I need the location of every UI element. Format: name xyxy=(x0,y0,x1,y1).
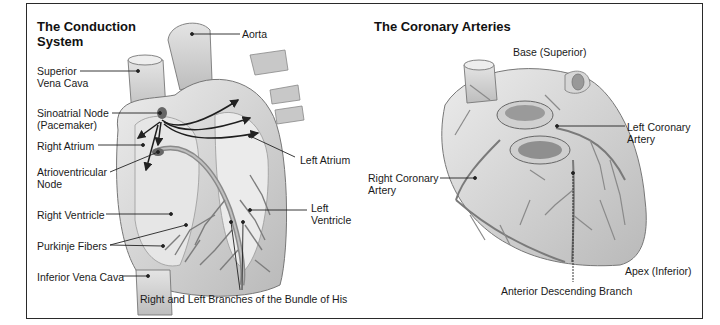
conduction-heart xyxy=(117,23,304,315)
label-superior-vena-cava-line2: Vena Cava xyxy=(37,77,88,89)
label-inferior-vena-cava: Inferior Vena Cava xyxy=(37,271,124,283)
label-right-atrium: Right Atrium xyxy=(37,140,94,152)
label-purkinje-fibers: Purkinje Fibers xyxy=(37,240,107,252)
label-bundle-of-his: Right and Left Branches of the Bundle of… xyxy=(140,293,347,305)
conduction-title-line2: System xyxy=(37,34,136,49)
conduction-title-line1: The Conduction xyxy=(37,19,136,34)
label-av-node-line2: Node xyxy=(37,178,107,190)
label-left-ventricle-line1: Left xyxy=(311,202,351,214)
coronary-heart xyxy=(442,60,646,266)
label-left-ventricle: Left Ventricle xyxy=(311,202,351,226)
label-anterior-descending-branch: Anterior Descending Branch xyxy=(501,285,632,297)
label-atrioventricular-node: Atrioventricular Node xyxy=(37,166,107,190)
label-left-coronary-artery: Left Coronary Artery xyxy=(627,121,691,145)
label-base-superior: Base (Superior) xyxy=(513,46,587,58)
label-right-coronary-artery: Right Coronary Artery xyxy=(368,172,439,196)
coronary-title: The Coronary Arteries xyxy=(374,19,511,34)
label-left-coronary-line1: Left Coronary xyxy=(627,121,691,133)
label-av-node-line1: Atrioventricular xyxy=(37,166,107,178)
label-left-coronary-line2: Artery xyxy=(627,133,691,145)
label-sinoatrial-node-line2: (Pacemaker) xyxy=(37,119,109,131)
label-sinoatrial-node-line1: Sinoatrial Node xyxy=(37,107,109,119)
label-left-atrium: Left Atrium xyxy=(300,154,350,166)
label-sinoatrial-node: Sinoatrial Node (Pacemaker) xyxy=(37,107,109,131)
label-apex-inferior: Apex (Inferior) xyxy=(625,265,692,277)
label-aorta: Aorta xyxy=(242,28,267,40)
label-left-ventricle-line2: Ventricle xyxy=(311,214,351,226)
label-right-coronary-line1: Right Coronary xyxy=(368,172,439,184)
conduction-title: The Conduction System xyxy=(37,19,136,49)
label-right-ventricle: Right Ventricle xyxy=(37,209,105,221)
label-superior-vena-cava-line1: Superior xyxy=(37,65,88,77)
label-superior-vena-cava: Superior Vena Cava xyxy=(37,65,88,89)
label-right-coronary-line2: Artery xyxy=(368,184,439,196)
